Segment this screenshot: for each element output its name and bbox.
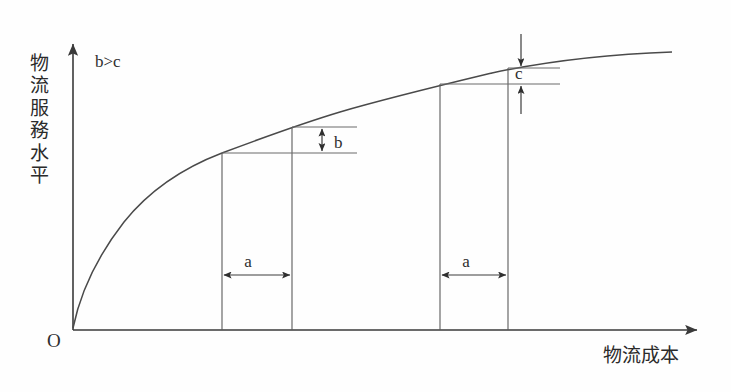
y-axis-label-char-4: 務	[30, 119, 49, 141]
y-axis-label-char-1: 物	[30, 52, 49, 74]
y-axis-label-char-6: 平	[30, 164, 49, 186]
label-a-first: a	[244, 252, 252, 271]
label-b: b	[334, 133, 343, 152]
x-axis-label: 物流成本	[603, 340, 679, 367]
y-axis-label-char-3: 服	[30, 97, 49, 119]
y-axis-label-char-2: 流	[30, 74, 49, 96]
y-axis-label: 物 流 服 務 水 平	[26, 52, 52, 282]
label-c: c	[515, 64, 523, 83]
origin-label: O	[47, 330, 61, 351]
logistics-service-cost-figure: O a a b c 物 流 服 務 水 平 物流成本 b>c	[0, 0, 731, 392]
inequality-note: b>c	[95, 52, 121, 72]
service-level-curve	[73, 52, 672, 328]
label-a-second: a	[462, 252, 470, 271]
y-axis-label-char-5: 水	[30, 142, 49, 164]
